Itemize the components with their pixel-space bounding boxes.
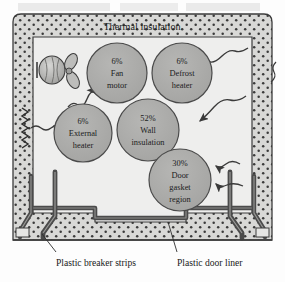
- caption-plastic-door-liner: Plastic door liner: [177, 257, 243, 268]
- bubble-percent: 6%: [111, 57, 122, 66]
- bubble-door-gasket-region: 30% Door gasket region: [149, 149, 211, 211]
- bubble-line1: Door: [171, 171, 188, 180]
- bubble-percent: 52%: [140, 114, 155, 123]
- bubble-line2: gasket: [169, 183, 191, 192]
- scan-bleed-top: [18, 3, 260, 11]
- bubble-line1: Wall: [140, 126, 156, 135]
- bubble-line2: heater: [73, 141, 94, 150]
- bubble-defrost-heater: 6% Defrost heater: [152, 43, 212, 103]
- bubble-line2: heater: [172, 81, 193, 90]
- diagram-title: Thermal insulation: [103, 21, 180, 32]
- bubble-line1: External: [69, 129, 98, 138]
- bubble-line2: insulation: [131, 138, 165, 147]
- bubble-line1: Fan: [111, 69, 124, 78]
- caption-plastic-breaker-strips: Plastic breaker strips: [56, 257, 136, 268]
- bubble-percent: 30%: [172, 159, 187, 168]
- bubble-line2: motor: [107, 81, 127, 90]
- thermal-insulation-diagram: Thermal insulation 6% Fan motor 6% Defro…: [0, 0, 285, 282]
- bubble-external-heater: 6% External heater: [54, 104, 112, 162]
- bubble-percent: 6%: [176, 57, 187, 66]
- bubble-percent: 6%: [77, 117, 88, 126]
- bubble-fan-motor: 6% Fan motor: [87, 43, 147, 103]
- bubble-line3: region: [169, 195, 191, 204]
- bubble-line1: Defrost: [169, 69, 195, 78]
